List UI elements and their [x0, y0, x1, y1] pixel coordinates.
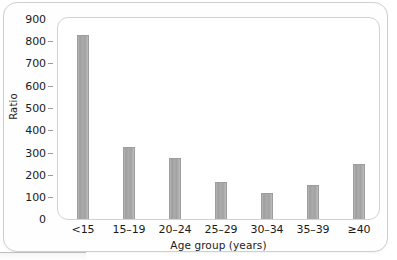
bar-age-25-29[interactable]: [215, 182, 227, 219]
bar-age-under-15[interactable]: [77, 35, 89, 219]
scan-edge-artifact: [0, 252, 86, 260]
chart-figure-frame: 900 800 700 600 500 400 300 200 100 0 Ra…: [3, 2, 388, 252]
bar-age-30-34[interactable]: [261, 193, 273, 219]
bars-layer: [4, 3, 397, 233]
bar-age-35-39[interactable]: [307, 185, 319, 219]
x-tick-label-40-plus: ≥40: [329, 224, 389, 236]
x-axis-title: Age group (years): [57, 239, 380, 251]
bar-age-20-24[interactable]: [169, 158, 181, 219]
bar-age-15-19[interactable]: [123, 147, 135, 219]
bar-age-40-plus[interactable]: [353, 164, 365, 219]
